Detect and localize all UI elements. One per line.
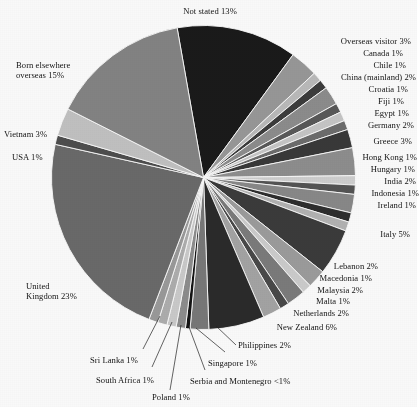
slice-label-usa: USA 1%	[12, 152, 92, 162]
slice-label-poland: Poland 1%	[152, 392, 272, 402]
slice-label-china-mainland: China (mainland) 2%	[205, 72, 416, 82]
slice-label-sri-lanka: Sri Lanka 1%	[90, 355, 220, 365]
slice-label-chile: Chile 1%	[205, 60, 406, 70]
slice-label-malta: Malta 1%	[180, 296, 350, 306]
slice-label-south-africa: South Africa 1%	[96, 375, 226, 385]
slice-label-indonesia: Indonesia 1%	[205, 188, 419, 198]
slice-label-born-elsewhere-line2: overseas 15%	[16, 70, 136, 80]
slice-label-netherlands: Netherlands 2%	[180, 308, 349, 318]
slice-label-vietnam: Vietnam 3%	[4, 129, 94, 139]
slice-label-canada: Canada 1%	[205, 48, 403, 58]
slice-label-born-elsewhere-line1: Born elsewhere	[16, 60, 136, 70]
slice-label-egypt: Egypt 1%	[205, 108, 409, 118]
slice-label-malaysia: Malaysia 2%	[180, 285, 363, 295]
slice-label-not-stated: Not stated 13%	[145, 6, 275, 16]
slice-label-singapore: Singapore 1%	[208, 358, 328, 368]
slice-label-hong-kong: Hong Kong 1%	[205, 152, 417, 162]
slice-label-italy: Italy 5%	[205, 229, 410, 239]
slice-label-lebanon: Lebanon 2%	[180, 261, 378, 271]
slice-label-overseas-visitor: Overseas visitor 3%	[205, 36, 411, 46]
slice-label-fiji: Fiji 1%	[205, 96, 404, 106]
slice-label-hungary: Hungary 1%	[205, 164, 415, 174]
slice-label-united-kingdom-line2: Kingdom 23%	[26, 291, 136, 301]
slice-label-united-kingdom: United Kingdom 23%	[26, 281, 136, 301]
slice-label-croatia: Croatia 1%	[205, 84, 408, 94]
slice-label-new-zealand: New Zealand 6%	[180, 322, 337, 332]
slice-label-macedonia: Macedonia 1%	[180, 273, 372, 283]
slice-label-united-kingdom-line1: United	[26, 281, 136, 291]
slice-label-india: India 2%	[205, 176, 416, 186]
leader-line-sri-lanka	[143, 316, 160, 349]
slice-label-ireland: Ireland 1%	[205, 200, 416, 210]
slice-label-greece: Greece 3%	[205, 136, 412, 146]
slice-label-germany: Germany 2%	[205, 120, 414, 130]
slice-label-philippines: Philippines 2%	[238, 340, 358, 350]
slice-label-born-elsewhere-overseas: Born elsewhere overseas 15%	[16, 60, 136, 80]
